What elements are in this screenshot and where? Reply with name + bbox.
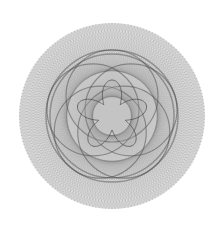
spirograph-artwork: [0, 0, 222, 228]
rosette-graphic: [0, 0, 222, 228]
